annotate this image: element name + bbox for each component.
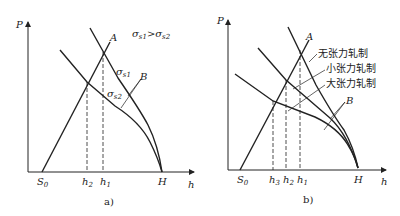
tick-s0: S0: [37, 176, 49, 189]
elastic-line-a: [240, 40, 309, 170]
tick-h3: h3: [269, 174, 280, 187]
tick-h1: h1: [100, 176, 111, 189]
label-b: B: [139, 71, 147, 82]
tick-h2: h2: [82, 176, 93, 189]
elastic-line-a: [42, 42, 110, 172]
label-b: B: [345, 95, 353, 106]
pointer-no-tension: [309, 54, 317, 62]
axis-label-p: P: [15, 19, 23, 30]
tick-h1: h1: [297, 174, 308, 187]
panel-b: P h A B 无张力轧制 小张力轧制 大张力轧制 S0 h3 h2 h1 H …: [216, 15, 387, 205]
caption-b: b): [303, 194, 313, 205]
pointer-b2: [121, 79, 141, 108]
label-a: A: [109, 32, 117, 43]
plastic-curve-s2: [60, 50, 162, 172]
diagram-canvas: P h A B σs1 σs2 σs1>σs2 S0 h2 h1 H a): [0, 0, 400, 216]
axis-label-h: h: [381, 176, 387, 187]
relation-label: σs1>σs2: [132, 28, 171, 41]
tick-s0: S0: [237, 174, 249, 187]
caption-a: a): [104, 196, 114, 207]
label-small-tension: 小张力轧制: [326, 62, 376, 74]
label-no-tension: 无张力轧制: [318, 47, 368, 59]
label-sigma-s2: σs2: [107, 88, 122, 101]
label-a: A: [305, 31, 313, 42]
axis-label-h: h: [188, 179, 194, 190]
pointer-small-tension: [293, 70, 325, 89]
plastic-curve-s1: [90, 28, 162, 172]
tick-h2: h2: [283, 174, 294, 187]
tick-H: H: [157, 176, 167, 187]
axis-label-p: P: [216, 15, 224, 26]
label-large-tension: 大张力轧制: [326, 77, 376, 89]
tick-H: H: [353, 174, 363, 185]
panel-a: P h A B σs1 σs2 σs1>σs2 S0 h2 h1 H a): [15, 19, 194, 207]
